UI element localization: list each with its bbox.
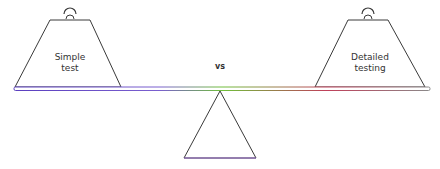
beam [14,87,430,91]
balance-scale-diagram [0,0,440,169]
vs-label: vs [208,61,232,72]
left-weight-label: Simple test [45,52,95,74]
fulcrum-triangle [184,91,256,158]
right-weight-label-line2: testing [340,63,400,74]
right-weight-label: Detailed testing [340,52,400,74]
left-weight-label-line2: test [45,63,95,74]
left-weight-label-line1: Simple [45,52,95,63]
left-weight [15,8,121,87]
right-weight-label-line1: Detailed [340,52,400,63]
right-weight [315,8,425,87]
